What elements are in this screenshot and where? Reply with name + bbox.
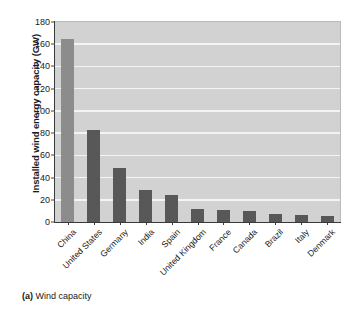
x-axis-tick-mark [275, 222, 276, 225]
y-axis-tick-mark [51, 66, 55, 67]
x-axis-tick-label: Canada [231, 227, 259, 255]
y-axis-tick-labels: 020406080100120140160180 [22, 0, 50, 320]
y-axis-tick-mark [51, 110, 55, 111]
x-axis-tick-labels: ChinaUnited StatesGermanyIndiaSpainUnite… [55, 222, 340, 292]
y-axis-tick-mark [51, 22, 55, 23]
bar [217, 210, 230, 222]
y-axis-line [54, 21, 55, 223]
x-axis-tick-mark [172, 222, 173, 225]
bar [87, 130, 100, 222]
plot-area [55, 22, 340, 222]
x-axis-tick-label: Italy [293, 227, 311, 245]
bar [113, 168, 126, 222]
y-axis-tick-label: 100 [22, 106, 50, 116]
y-axis-tick-label: 140 [22, 61, 50, 71]
bar-series [55, 22, 340, 222]
bar [139, 190, 152, 222]
x-axis-tick-label: United Kingdom [157, 227, 207, 277]
x-axis-tick-label: China [55, 227, 78, 250]
y-axis-tick-mark [51, 44, 55, 45]
x-axis-tick-mark [327, 222, 328, 225]
x-axis-tick-mark [301, 222, 302, 225]
x-axis-tick-label: Denmark [305, 227, 337, 259]
bar [61, 39, 74, 222]
x-axis-tick-mark [94, 222, 95, 225]
x-axis-tick-mark [198, 222, 199, 225]
y-axis-tick-mark [51, 155, 55, 156]
x-axis-tick-mark [223, 222, 224, 225]
y-axis-tick-mark [51, 133, 55, 134]
y-axis-tick-mark [51, 177, 55, 178]
x-axis-tick-mark [249, 222, 250, 225]
y-axis-tick-label: 180 [22, 17, 50, 27]
x-axis-tick-mark [146, 222, 147, 225]
x-axis-tick-label: Spain [159, 227, 182, 250]
x-axis-tick-mark [120, 222, 121, 225]
bar [191, 209, 204, 222]
y-axis-tick-label: 20 [22, 195, 50, 205]
bar [269, 214, 282, 222]
x-axis-tick-label: India [135, 227, 155, 247]
y-axis-tick-mark [51, 222, 55, 223]
caption-text: Wind capacity [36, 291, 92, 301]
y-axis-tick-label: 80 [22, 128, 50, 138]
y-axis-tick-label: 120 [22, 84, 50, 94]
y-axis-tick-label: 40 [22, 173, 50, 183]
caption-tag: (a) [22, 291, 33, 301]
x-axis-tick-label: France [207, 227, 233, 253]
figure-caption: (a) Wind capacity [22, 291, 92, 301]
x-axis-tick-mark [68, 222, 69, 225]
y-axis-tick-mark [51, 199, 55, 200]
bar [295, 215, 308, 222]
wind-capacity-figure: Installed wind energy capacity (GW) 0204… [0, 0, 351, 320]
y-axis-tick-label: 60 [22, 150, 50, 160]
x-axis-tick-label: Brazil [263, 227, 285, 249]
bar [165, 195, 178, 222]
plot-right-spine [340, 21, 341, 223]
y-axis-tick-mark [51, 88, 55, 89]
y-axis-tick-label: 0 [22, 217, 50, 227]
y-axis-tick-label: 160 [22, 39, 50, 49]
bar [243, 211, 256, 222]
